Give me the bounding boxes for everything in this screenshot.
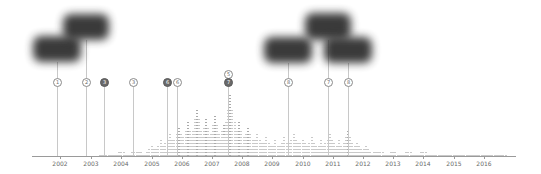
x-tick [303,156,304,159]
x-tick-label: 2009 [264,160,279,167]
x-tick [484,156,485,159]
marker-stem [177,85,178,156]
event-marker[interactable]: 8 [344,78,353,87]
marker-stem [104,85,105,156]
x-tick-label: 2010 [295,160,310,167]
event-marker[interactable]: 7 [324,78,333,87]
event-marker[interactable]: 6 [173,78,182,87]
x-tick [333,156,334,159]
marker-stem [348,63,349,156]
x-tick-label: 2016 [476,160,491,167]
x-tick [152,156,153,159]
x-tick-label: 2002 [52,160,67,167]
x-tick-label: 2015 [446,160,461,167]
thumbnail-4[interactable] [305,13,351,40]
marker-stem [133,85,134,156]
x-tick-label: 2003 [83,160,98,167]
x-tick-label: 2008 [234,160,249,167]
x-tick [393,156,394,159]
x-tick [121,156,122,159]
event-marker[interactable]: 3 [129,78,138,87]
x-tick [91,156,92,159]
marker-stem [228,85,229,156]
x-axis-line [32,156,516,157]
x-tick-label: 2013 [385,160,400,167]
x-tick-label: 2007 [204,160,219,167]
x-tick [242,156,243,159]
x-tick [212,156,213,159]
event-marker[interactable]: 6 [163,78,172,87]
event-marker[interactable]: 2 [82,78,91,87]
thumbnail-2[interactable] [63,14,109,40]
event-marker[interactable]: 1 [53,78,62,87]
x-tick [60,156,61,159]
x-tick-label: 2006 [174,160,189,167]
x-tick-label: 2014 [415,160,430,167]
marker-stem [86,40,87,156]
x-tick-label: 2012 [355,160,370,167]
x-tick [423,156,424,159]
x-tick-label: 2011 [325,160,340,167]
x-tick [363,156,364,159]
x-tick [454,156,455,159]
x-tick [272,156,273,159]
x-tick [182,156,183,159]
marker-stem [288,63,289,156]
thumbnail-5[interactable] [324,37,372,63]
event-marker[interactable]: 8 [284,78,293,87]
marker-stem [167,85,168,156]
x-tick-label: 2004 [113,160,128,167]
event-marker[interactable]: 3 [100,78,109,87]
thumbnail-3[interactable] [264,37,312,63]
event-marker[interactable]: 7 [224,78,233,87]
marker-stem [57,62,58,156]
x-tick-label: 2005 [144,160,159,167]
